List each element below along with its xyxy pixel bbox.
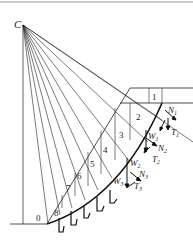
- ground-profile: [10, 88, 193, 224]
- force-label-t2: T2: [152, 154, 160, 165]
- force-label-n1: N1: [167, 105, 177, 116]
- force-vectors: [125, 110, 176, 188]
- toe-label: 0: [36, 213, 41, 223]
- slip-surface-arc: [47, 103, 162, 224]
- slice-label-2: 2: [136, 112, 141, 122]
- center-label: C: [14, 18, 22, 30]
- slice-label-5: 5: [90, 159, 95, 169]
- force-label-t1: T1: [171, 127, 179, 138]
- force-label-w2: W2: [130, 158, 141, 169]
- slice-label-3: 3: [119, 130, 124, 140]
- slice-label-7: 7: [66, 183, 71, 193]
- slope-stability-diagram: C 0 1 2 3 4 5 6 7 8 N1 T1 W1 N2 T2 W2 N3…: [0, 0, 193, 244]
- slice-label-1: 1: [152, 92, 157, 102]
- force-label-t3: T3: [134, 181, 142, 192]
- lower-force-glyphs: [59, 190, 117, 232]
- slice-label-8: 8: [54, 208, 59, 218]
- force-label-w1: W1: [148, 131, 159, 142]
- slice-label-4: 4: [103, 145, 108, 155]
- force-label-w3: W3: [113, 176, 124, 187]
- slice-label-6: 6: [77, 171, 82, 181]
- force-label-n3: N3: [138, 169, 148, 180]
- force-label-n2: N2: [157, 143, 167, 154]
